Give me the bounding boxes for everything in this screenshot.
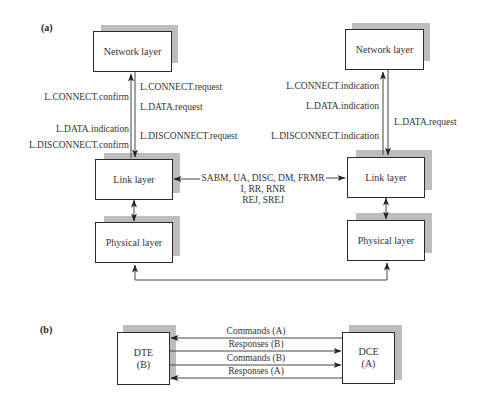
frame-types-line-2: I, RR, RNR: [200, 184, 326, 195]
dce-role: (A): [362, 358, 376, 370]
left-physical-layer: Physical layer: [95, 222, 173, 263]
frame-types-line-3: REJ, SREJ: [200, 195, 326, 206]
primitive-label: L.DATA.request: [140, 102, 203, 113]
primitive-label: L.DATA.indication: [56, 124, 129, 135]
dte-box: DTE (B): [117, 332, 170, 385]
arrow-label: Commands (A): [200, 326, 312, 337]
dce-name: DCE: [359, 346, 379, 358]
right-physical-layer: Physical layer: [347, 220, 425, 261]
right-link-layer: Link layer: [347, 157, 425, 198]
primitive-label: L.DISCONNECT.confirm: [29, 140, 129, 151]
dte-role: (B): [137, 359, 150, 371]
arrow-label: Commands (B): [200, 353, 312, 364]
primitive-label: L.DATA.request: [394, 117, 457, 128]
arrow-label: Responses (B): [200, 339, 312, 350]
right-network-layer: Network layer: [345, 29, 424, 70]
primitive-label: L.CONNECT.confirm: [44, 92, 129, 103]
frame-types-line-1: SABM, UA, DISC, DM, FRMR: [200, 173, 326, 184]
dce-box: DCE (A): [342, 332, 395, 384]
left-network-layer: Network layer: [93, 31, 172, 72]
primitive-label: L.DISCONNECT.indication: [271, 131, 379, 142]
primitive-label: L.DISCONNECT.request: [140, 131, 237, 142]
dte-name: DTE: [134, 347, 153, 359]
left-link-layer: Link layer: [95, 159, 173, 200]
arrow-label: Responses (A): [200, 366, 312, 377]
primitive-label: L.DATA.indication: [306, 101, 379, 112]
primitive-label: L.CONNECT.request: [140, 82, 222, 93]
primitive-label: L.CONNECT.indication: [286, 81, 379, 92]
